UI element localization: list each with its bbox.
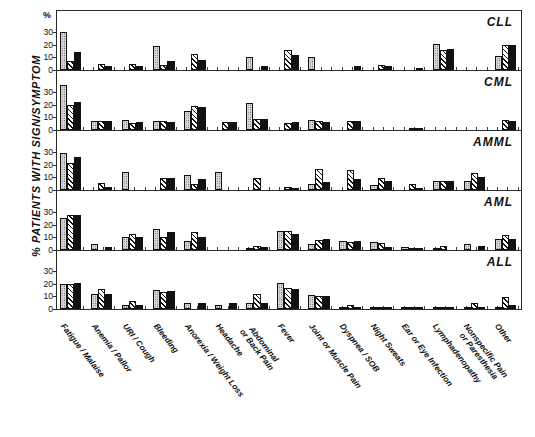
bar: [339, 307, 346, 309]
y-tick-mark: [53, 225, 57, 226]
bar: [160, 178, 167, 190]
bar-group: [122, 142, 144, 190]
plot-area: 0102030: [57, 142, 521, 190]
bar: [74, 157, 81, 190]
bar-group: [433, 142, 455, 190]
bar: [433, 44, 440, 70]
bar-group: [464, 261, 486, 309]
bar: [277, 283, 284, 309]
bar: [292, 122, 299, 130]
bar-group: [122, 202, 144, 250]
bar: [60, 32, 67, 70]
bar: [308, 295, 315, 309]
bar-group: [277, 202, 299, 250]
x-axis-label: Joint or Muscle Pain: [307, 322, 363, 390]
x-tick-mark: [207, 306, 208, 309]
bar: [284, 50, 291, 70]
y-tick-mark: [53, 117, 57, 118]
bar: [198, 303, 205, 309]
bar: [67, 284, 74, 309]
bar: [284, 231, 291, 250]
bar: [315, 240, 322, 250]
bar: [74, 215, 81, 250]
panel-stack: CLL0102030%CML0102030AMML0102030AML01020…: [56, 10, 522, 310]
bar: [261, 303, 268, 309]
bar-group: [215, 261, 237, 309]
bar: [191, 54, 198, 70]
chart-figure: % PATIENTS WITH SIGN/SYMPTOM CLL0102030%…: [0, 0, 535, 437]
bar: [478, 307, 485, 309]
y-tick-mark: [53, 309, 57, 310]
bar-group: [122, 261, 144, 309]
bar: [284, 288, 291, 309]
bar: [184, 175, 191, 190]
y-tick-label: 30: [44, 266, 53, 276]
bar: [385, 181, 392, 190]
bar: [433, 181, 440, 190]
y-tick-label: 20: [44, 160, 53, 170]
bar-group: [308, 202, 330, 250]
x-tick-mark: [362, 306, 363, 309]
bar-group: [153, 82, 175, 130]
bar: [339, 241, 346, 250]
bar: [74, 102, 81, 130]
bar: [323, 239, 330, 250]
plot-area: 0102030: [57, 261, 521, 309]
bar-group: [184, 202, 206, 250]
y-tick-label: 10: [44, 52, 53, 62]
y-tick-mark: [53, 32, 57, 33]
x-tick-mark: [424, 306, 425, 309]
bar-group: [60, 261, 82, 309]
bar-group: [464, 202, 486, 250]
y-tick-mark: [53, 165, 57, 166]
bar-group: [339, 82, 361, 130]
bar-group: [339, 261, 361, 309]
x-axis-label: Anorexia / Weight Loss: [183, 322, 246, 399]
bar-group: [464, 82, 486, 130]
bar: [261, 119, 268, 130]
bar: [308, 57, 315, 70]
bar-group: [401, 22, 423, 70]
bar: [67, 215, 74, 250]
panel-amml: AMML0102030: [56, 130, 522, 190]
bar: [502, 235, 509, 250]
bar: [253, 178, 260, 190]
bar-group: [60, 82, 82, 130]
bar: [222, 122, 229, 130]
bar-group: [91, 82, 113, 130]
y-tick-label: 20: [44, 220, 53, 230]
bar: [246, 303, 253, 309]
bar: [495, 56, 502, 70]
x-axis-label: Fever: [276, 322, 297, 345]
bar: [378, 243, 385, 250]
bar: [153, 46, 160, 70]
bar: [215, 305, 222, 309]
bar-group: [370, 261, 392, 309]
bar: [122, 120, 129, 130]
bar: [378, 178, 385, 190]
bar: [91, 121, 98, 130]
bar: [198, 60, 205, 70]
bar: [323, 122, 330, 130]
bar: [198, 237, 205, 250]
bar: [136, 237, 143, 250]
x-axis-label: Headache: [214, 322, 245, 358]
bar-group: [401, 142, 423, 190]
bar-group: [215, 22, 237, 70]
bar: [160, 121, 167, 130]
bar-group: [401, 261, 423, 309]
x-axis-label: Other: [493, 322, 514, 345]
bar: [67, 61, 74, 70]
bar: [308, 120, 315, 130]
x-tick-mark: [487, 306, 488, 309]
y-tick-mark: [53, 177, 57, 178]
bar-group: [464, 22, 486, 70]
bar-group: [495, 261, 517, 309]
bar-group: [370, 202, 392, 250]
bar-group: [184, 22, 206, 70]
bar: [323, 182, 330, 190]
bar: [401, 307, 408, 309]
bar-group: [246, 82, 268, 130]
x-tick-mark: [145, 306, 146, 309]
bar: [153, 121, 160, 130]
